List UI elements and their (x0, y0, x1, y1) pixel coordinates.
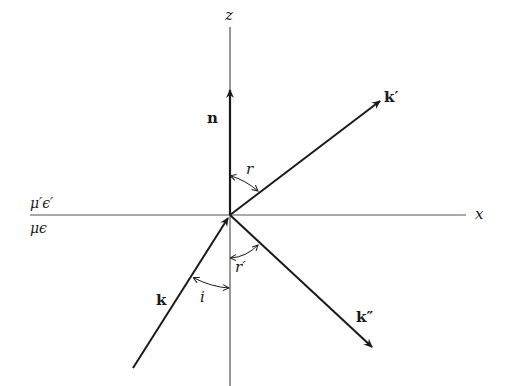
reflected-vector-k-double-prime (230, 215, 372, 347)
z-axis-label: z (225, 8, 233, 23)
angle-label-r: r (246, 162, 253, 177)
incident-vector-k (133, 218, 228, 368)
upper-medium-label: μ′ϵ′ (30, 196, 53, 210)
angle-arc-i (194, 278, 229, 288)
lower-medium-label: μϵ (30, 221, 47, 235)
normal-label-n: n (207, 111, 218, 126)
angle-label-i: i (200, 290, 205, 305)
refracted-label-k-prime: k′ (384, 90, 398, 105)
angle-label-r-prime: r′ (235, 260, 246, 275)
x-axis-label: x (475, 207, 483, 222)
refracted-vector-k-prime (230, 101, 380, 215)
incident-label-k: k (156, 293, 166, 308)
diagram-canvas (0, 0, 506, 386)
angle-arc-r-prime (231, 245, 258, 258)
reflected-label-k-double-prime: k″ (356, 310, 373, 325)
angle-arc-r (231, 176, 258, 191)
